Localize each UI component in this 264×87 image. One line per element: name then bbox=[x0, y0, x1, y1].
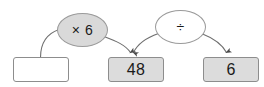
arrow-divide-to-middle bbox=[134, 34, 159, 53]
multiply-op-ellipse[interactable]: × 6 bbox=[57, 13, 108, 47]
arrow-input-to-multiply bbox=[41, 30, 60, 58]
divide-op-ellipse[interactable]: ÷ bbox=[155, 10, 206, 44]
arrow-multiply-to-middle bbox=[104, 37, 131, 53]
arrow-divide-to-output bbox=[202, 34, 227, 53]
output-box-value: 6 bbox=[226, 62, 235, 78]
output-box[interactable]: 6 bbox=[203, 57, 259, 82]
function-machine-diagram: × 6 48 ÷ 6 bbox=[0, 0, 264, 87]
divide-icon: ÷ bbox=[176, 20, 184, 34]
multiply-icon: × 6 bbox=[72, 23, 93, 37]
middle-box-value: 48 bbox=[127, 62, 145, 78]
middle-box[interactable]: 48 bbox=[108, 57, 164, 82]
input-box[interactable] bbox=[13, 57, 69, 82]
